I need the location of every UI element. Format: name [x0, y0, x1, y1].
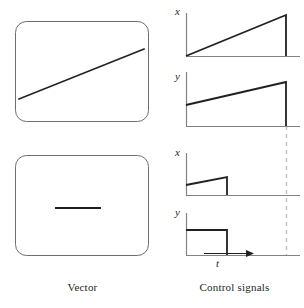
axis-label-y-long: y [175, 71, 180, 82]
chart-y-long-signal [186, 82, 286, 126]
diagonal-vector-panel [16, 22, 149, 122]
axis-label-y-short: y [175, 207, 180, 218]
vector-panel-border-top [16, 22, 149, 122]
chart-y-short-signal [186, 230, 227, 255]
vector-panel-border-bottom [16, 156, 149, 256]
axis-label-x-short: x [175, 147, 180, 158]
figure-root: x y x y t Vector Control signals [0, 0, 304, 308]
caption-control-signals: Control signals [165, 281, 304, 293]
axis-label-x-long: x [175, 6, 180, 17]
horizontal-vector-panel [16, 156, 149, 256]
chart-x-long [186, 13, 300, 57]
caption-vector: Vector [0, 281, 165, 293]
chart-y-long [186, 72, 300, 127]
chart-y-short [186, 213, 300, 256]
figure-canvas [0, 0, 304, 308]
chart-x-short [186, 153, 300, 196]
axis-label-time: t [216, 258, 219, 269]
chart-x-long-signal [186, 15, 286, 56]
chart-x-short-signal [186, 177, 227, 195]
